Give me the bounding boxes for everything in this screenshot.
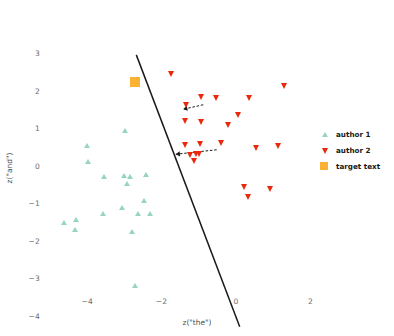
data-point-author-1 xyxy=(143,172,149,177)
data-point-author-1 xyxy=(135,211,141,216)
legend-item-author-2[interactable]: author 2 xyxy=(322,143,394,159)
data-point-author-1 xyxy=(100,211,106,216)
y-tick-label: −4 xyxy=(26,311,40,320)
data-point-author-1 xyxy=(122,128,128,133)
legend-item-author-1[interactable]: author 1 xyxy=(322,127,394,143)
data-point-author-2 xyxy=(275,143,281,149)
data-point-author-1 xyxy=(73,217,79,222)
x-tick-label: −4 xyxy=(81,297,92,306)
y-tick-label: 1 xyxy=(26,124,40,133)
data-point-author-2 xyxy=(241,184,247,190)
legend: author 1author 2target text xyxy=(322,127,394,175)
data-point-author-2 xyxy=(218,140,224,146)
scatter-plot: −4−202 3210−1−2−3−4 z("the") z("and") au… xyxy=(0,0,394,336)
data-point-author-2 xyxy=(197,141,203,147)
data-point-author-1 xyxy=(85,159,91,164)
data-point-author-1 xyxy=(124,181,130,186)
x-tick-label: 0 xyxy=(234,297,239,306)
data-point-author-1 xyxy=(129,229,135,234)
legend-triangle-down-icon xyxy=(322,148,328,154)
target-text-marker xyxy=(130,77,140,87)
data-point-author-2 xyxy=(245,194,251,200)
data-point-author-1 xyxy=(61,220,67,225)
x-axis-title: z("the") xyxy=(183,318,212,327)
legend-label: author 1 xyxy=(336,130,371,139)
data-point-author-1 xyxy=(132,283,138,288)
x-tick-label: 2 xyxy=(308,297,313,306)
data-point-author-1 xyxy=(147,211,153,216)
data-point-author-2 xyxy=(213,95,219,101)
y-axis-title: z("and") xyxy=(5,153,14,184)
legend-triangle-up-icon xyxy=(322,132,328,137)
data-point-author-2 xyxy=(281,83,287,89)
data-point-author-2 xyxy=(253,145,259,151)
decision-boundary-line xyxy=(136,55,239,327)
data-point-author-1 xyxy=(101,174,107,179)
data-point-author-1 xyxy=(119,205,125,210)
data-point-author-2 xyxy=(246,95,252,101)
data-point-author-1 xyxy=(127,174,133,179)
y-tick-label: −3 xyxy=(26,274,40,283)
data-point-author-2 xyxy=(235,112,241,118)
data-point-author-1 xyxy=(72,227,78,232)
data-point-author-2 xyxy=(182,142,188,148)
y-tick-label: 2 xyxy=(26,86,40,95)
legend-square-icon xyxy=(320,162,328,170)
data-point-author-2 xyxy=(168,71,174,77)
data-point-author-2 xyxy=(198,94,204,100)
data-point-author-2 xyxy=(225,122,231,128)
data-point-author-1 xyxy=(141,198,147,203)
data-point-author-2 xyxy=(267,186,273,192)
data-point-author-2 xyxy=(198,119,204,125)
data-point-author-2 xyxy=(182,118,188,124)
data-point-author-2 xyxy=(196,151,202,157)
perturbation-arrow-lower-head xyxy=(176,151,180,156)
y-tick-label: −2 xyxy=(26,236,40,245)
y-tick-label: 3 xyxy=(26,49,40,58)
y-tick-label: 0 xyxy=(26,161,40,170)
data-point-author-2 xyxy=(183,102,189,108)
legend-item-target-text[interactable]: target text xyxy=(322,159,394,175)
x-tick-label: −2 xyxy=(156,297,167,306)
y-tick-label: −1 xyxy=(26,199,40,208)
data-point-author-2 xyxy=(191,158,197,164)
legend-label: author 2 xyxy=(336,146,371,155)
perturbation-arrows xyxy=(176,105,217,157)
legend-label: target text xyxy=(336,162,380,171)
data-point-author-1 xyxy=(84,143,90,148)
